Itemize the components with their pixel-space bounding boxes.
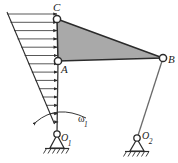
omega1-label: ω1 (78, 114, 88, 127)
joint-c (53, 15, 60, 22)
support-o1-hatching (44, 149, 70, 154)
joint-b (159, 54, 166, 61)
joint-c-label: C (53, 2, 60, 13)
load-envelope-line (7, 12, 55, 124)
support-o1-pin (54, 131, 60, 137)
support-o1-label: O1 (61, 133, 72, 146)
joint-b-label: B (168, 54, 175, 65)
triangle-link-acb (57, 19, 163, 61)
joint-a-label: A (61, 64, 68, 75)
distributed-load-group (7, 12, 58, 124)
support-o2-label-subscript: 2 (149, 137, 153, 146)
mechanism-diagram: C A B O1 O2 ω1 (0, 0, 178, 163)
support-o2-pin (134, 135, 140, 141)
link-b-o2 (138, 58, 164, 137)
support-o2-hatching (124, 152, 150, 157)
support-o1-label-subscript: 1 (68, 139, 72, 148)
support-o2-label: O2 (142, 131, 153, 144)
omega-subscript: 1 (84, 120, 88, 129)
